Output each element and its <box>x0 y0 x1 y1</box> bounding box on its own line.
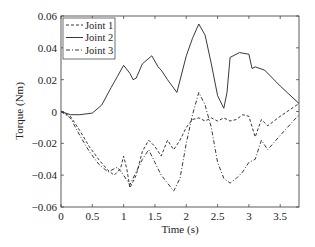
x-tick-label: 2.5 <box>211 210 225 222</box>
x-tick-label: 3.5 <box>273 210 287 222</box>
y-tick-label: −0.02 <box>32 137 57 149</box>
legend-entry-label: Joint 1 <box>85 20 113 31</box>
x-tick-label: 0 <box>58 210 64 222</box>
legend: Joint 1Joint 2Joint 3 <box>63 18 115 59</box>
y-tick-label: 0.02 <box>38 74 57 86</box>
x-tick-label: 3 <box>246 210 252 222</box>
x-tick-label: 0.5 <box>85 210 99 222</box>
x-tick-label: 1.5 <box>148 210 162 222</box>
y-tick-label: −0.04 <box>32 169 58 181</box>
y-tick-label: 0 <box>52 106 58 118</box>
y-tick-label: 0.06 <box>38 10 58 22</box>
legend-entry-label: Joint 2 <box>85 32 113 43</box>
x-tick-label: 1 <box>121 210 127 222</box>
line-chart: 00.511.522.533.5 −0.06−0.04−0.0200.020.0… <box>0 0 315 247</box>
y-tick-label: 0.04 <box>38 42 58 54</box>
legend-entry-label: Joint 3 <box>85 45 113 56</box>
y-axis-label: Torque (Nm) <box>13 82 26 140</box>
x-axis-label: Time (s) <box>161 223 199 236</box>
x-tick-label: 2 <box>184 210 190 222</box>
y-tick-label: −0.06 <box>32 201 58 213</box>
